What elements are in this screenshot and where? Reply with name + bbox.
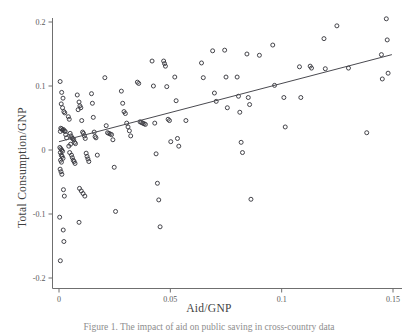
- ticks-group: [49, 22, 394, 293]
- data-point: [112, 165, 116, 169]
- data-point: [384, 17, 388, 21]
- data-point: [83, 136, 87, 140]
- data-point: [246, 96, 250, 100]
- data-point: [60, 90, 64, 94]
- data-point: [297, 65, 301, 69]
- data-point: [58, 215, 62, 219]
- data-point: [61, 228, 65, 232]
- data-point: [103, 76, 107, 80]
- data-point: [150, 59, 154, 63]
- data-point: [87, 160, 91, 164]
- data-point: [248, 103, 252, 107]
- data-point: [157, 198, 161, 202]
- data-point: [323, 67, 327, 71]
- data-point: [240, 151, 244, 155]
- data-point: [90, 101, 94, 105]
- data-point: [169, 140, 173, 144]
- data-point: [200, 61, 204, 65]
- data-point: [91, 115, 95, 119]
- data-point: [201, 76, 205, 80]
- data-points-group: [58, 17, 390, 263]
- x-tick-label: 0.15: [386, 295, 400, 304]
- data-point: [365, 131, 369, 135]
- y-tick-label: 0.1: [36, 82, 46, 91]
- data-point: [77, 220, 81, 224]
- data-point: [225, 106, 229, 110]
- x-tick-label: 0.05: [163, 295, 177, 304]
- data-point: [173, 75, 177, 79]
- data-point: [77, 100, 81, 104]
- data-point: [62, 240, 66, 244]
- data-point: [184, 119, 188, 123]
- regression-line: [59, 55, 392, 142]
- data-point: [163, 62, 167, 66]
- data-point: [127, 129, 131, 133]
- data-point: [121, 101, 125, 105]
- data-point: [235, 75, 239, 79]
- x-tick-label: 0.1: [277, 295, 287, 304]
- data-point: [158, 225, 162, 229]
- data-point: [58, 80, 62, 84]
- data-point: [151, 84, 155, 88]
- data-point: [257, 53, 261, 57]
- data-point: [114, 209, 118, 213]
- data-point: [95, 153, 99, 157]
- data-point: [245, 52, 249, 56]
- data-point: [155, 181, 159, 185]
- data-point: [62, 194, 66, 198]
- data-point: [165, 85, 169, 89]
- data-point: [104, 124, 108, 128]
- data-point: [153, 121, 157, 125]
- data-point: [60, 172, 64, 176]
- y-tick-label: -0.1: [33, 210, 46, 219]
- data-point: [177, 144, 181, 148]
- data-point: [75, 93, 79, 97]
- data-point: [80, 119, 84, 123]
- data-point: [90, 92, 94, 96]
- y-tick-label: 0.2: [36, 18, 46, 27]
- data-point: [67, 117, 71, 121]
- data-point: [66, 115, 70, 119]
- data-point: [224, 75, 228, 79]
- data-point: [299, 96, 303, 100]
- data-point: [212, 91, 216, 95]
- data-point: [271, 43, 275, 47]
- data-point: [335, 24, 339, 28]
- data-point: [239, 140, 243, 144]
- data-point: [283, 125, 287, 129]
- data-point: [238, 110, 242, 114]
- axes-group: [53, 18, 403, 289]
- data-point: [154, 152, 158, 156]
- data-point: [211, 49, 215, 53]
- data-point: [61, 188, 65, 192]
- data-point: [386, 71, 390, 75]
- data-point: [59, 170, 63, 174]
- data-point: [111, 138, 115, 142]
- data-point: [86, 157, 90, 161]
- data-point: [58, 259, 62, 263]
- data-point: [223, 48, 227, 52]
- regression-line-group: [59, 55, 392, 142]
- data-point: [58, 167, 62, 171]
- data-point: [249, 197, 253, 201]
- data-point: [379, 53, 383, 57]
- data-point: [68, 131, 72, 135]
- data-point: [174, 99, 178, 103]
- y-tick-label: 0: [42, 146, 46, 155]
- data-point: [162, 59, 166, 63]
- data-point: [163, 64, 167, 68]
- data-point: [61, 96, 65, 100]
- data-point: [282, 96, 286, 100]
- figure-caption: Figure 1. The impact of aid on public sa…: [0, 322, 418, 332]
- data-point: [175, 136, 179, 140]
- data-point: [119, 89, 123, 93]
- x-tick-label: 0: [57, 295, 61, 304]
- data-point: [322, 37, 326, 41]
- x-axis-title: Aid/GNP: [0, 302, 418, 314]
- y-tick-label: -0.2: [33, 274, 46, 283]
- data-point: [380, 77, 384, 81]
- y-axis-title: Total Consumption/GNP: [16, 107, 28, 228]
- data-point: [129, 134, 133, 138]
